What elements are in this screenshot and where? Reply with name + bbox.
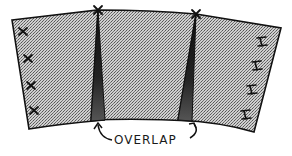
- arrow-left-overlap: [98, 125, 112, 140]
- left-panel: [12, 10, 104, 129]
- overlap-label: OVERLAP: [114, 133, 177, 147]
- arrow-right-head: [189, 123, 196, 128]
